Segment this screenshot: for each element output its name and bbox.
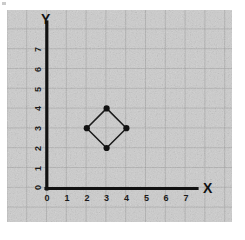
plot-layer: [0, 0, 245, 240]
x-axis-title: X: [203, 181, 212, 195]
x-tick-3: 3: [100, 194, 114, 203]
vertex-dot-right: [123, 125, 129, 131]
y-tick-7: 7: [34, 43, 43, 57]
vertex-dot-left: [84, 125, 90, 131]
y-tick-1: 1: [34, 161, 43, 175]
y-tick-0: 0: [34, 181, 43, 195]
x-tick-1: 1: [60, 194, 74, 203]
x-tick-2: 2: [80, 194, 94, 203]
y-tick-6: 6: [34, 62, 43, 76]
axis-lines: [46, 22, 197, 189]
y-tick-4: 4: [34, 102, 43, 116]
y-axis-title: Y: [41, 12, 50, 26]
vertex-dot-bottom: [104, 145, 110, 151]
y-tick-3: 3: [34, 122, 43, 136]
coordinate-grid-figure: 0 1 2 3 4 5 6 7 0 1 2 3 4 5 6 7 Y X: [0, 0, 245, 240]
x-tick-6: 6: [159, 194, 173, 203]
x-tick-4: 4: [120, 194, 134, 203]
quadrilateral-shape: [84, 105, 130, 151]
vertex-dot-top: [104, 105, 110, 111]
y-tick-5: 5: [34, 82, 43, 96]
x-tick-7: 7: [179, 194, 193, 203]
x-tick-0: 0: [40, 194, 54, 203]
y-tick-2: 2: [34, 141, 43, 155]
x-tick-5: 5: [140, 194, 154, 203]
